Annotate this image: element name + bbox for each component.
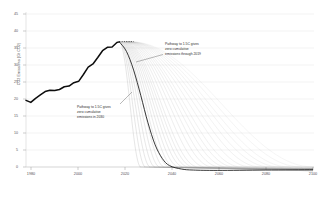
pathway-fan-line [121, 42, 313, 169]
pathway-fan-line [130, 42, 313, 171]
y-tick-label: 45 [2, 12, 18, 16]
y-tick-label: 5 [2, 148, 18, 152]
x-tick-label: 2040 [160, 172, 184, 176]
pathway-fan-line [121, 42, 313, 169]
pathway-fan [119, 42, 313, 171]
x-tick-label: 1980 [19, 172, 43, 176]
pathway-fan-line [128, 42, 313, 171]
x-tick-label: 2080 [254, 172, 278, 176]
x-tick-label: 2020 [113, 172, 137, 176]
x-tick-label: 2000 [66, 172, 90, 176]
pathway-fan-line [119, 42, 313, 168]
pathway-fan-line [126, 42, 313, 170]
pathway-fan-line [125, 42, 313, 170]
y-tick-label: 0 [2, 165, 18, 169]
historical-emissions-line [26, 42, 119, 103]
chart-container: CO2 Emissions (Gt CO2) 45 40 35 30 25 20… [0, 0, 320, 203]
y-tick-label: 25 [2, 80, 18, 84]
pathway-fan-line [125, 42, 313, 170]
y-tick-label: 40 [2, 29, 18, 33]
pathway-fan-line [128, 42, 313, 171]
annotation-right-line-3: emissions through 2019 [165, 52, 201, 57]
pathway-fan-line [127, 42, 313, 170]
y-tick-label: 35 [2, 46, 18, 50]
annotation-right: Pathway to 1.5C gives zero cumulative em… [165, 42, 201, 56]
annotation-left-line-3: emissions in 2030 [77, 115, 111, 120]
y-tick-label: 15 [2, 114, 18, 118]
y-tick-label: 20 [2, 97, 18, 101]
pathway-fan-line [129, 42, 313, 171]
gridlines-horizontal [26, 14, 314, 150]
annotation-left-leader [120, 92, 132, 104]
y-tick-label: 10 [2, 131, 18, 135]
pathway-fan-line [125, 42, 313, 170]
pathway-fan-line [130, 42, 313, 171]
y-tick-marks [23, 14, 26, 167]
annotation-right-leader [136, 55, 163, 63]
x-tick-label: 2060 [207, 172, 231, 176]
x-tick-label: 2100 [301, 172, 320, 176]
annotation-left: Pathway to 1.5C gives zero cumulative em… [77, 105, 111, 119]
y-tick-label: 30 [2, 63, 18, 67]
